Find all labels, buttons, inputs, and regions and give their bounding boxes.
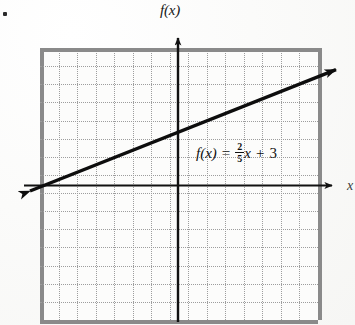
fraction-numerator: 2 xyxy=(236,142,243,152)
x-axis-label: x xyxy=(347,178,353,194)
equation-constant: 3 xyxy=(269,145,277,162)
fraction-denominator: 5 xyxy=(236,154,243,164)
equation-lhs: f(x) xyxy=(196,145,217,162)
figure-canvas: f(x) x f(x) = 2 5 x + 3 xyxy=(0,0,355,325)
function-line xyxy=(30,70,336,191)
equation-variable: x xyxy=(244,145,251,162)
equation-equals: = xyxy=(222,145,230,162)
y-axis-label: f(x) xyxy=(160,2,180,19)
equation-plus: + xyxy=(256,145,264,162)
equation-fraction: 2 5 xyxy=(235,142,244,164)
function-line-layer xyxy=(0,0,355,325)
equation-annotation: f(x) = 2 5 x + 3 xyxy=(196,143,277,165)
